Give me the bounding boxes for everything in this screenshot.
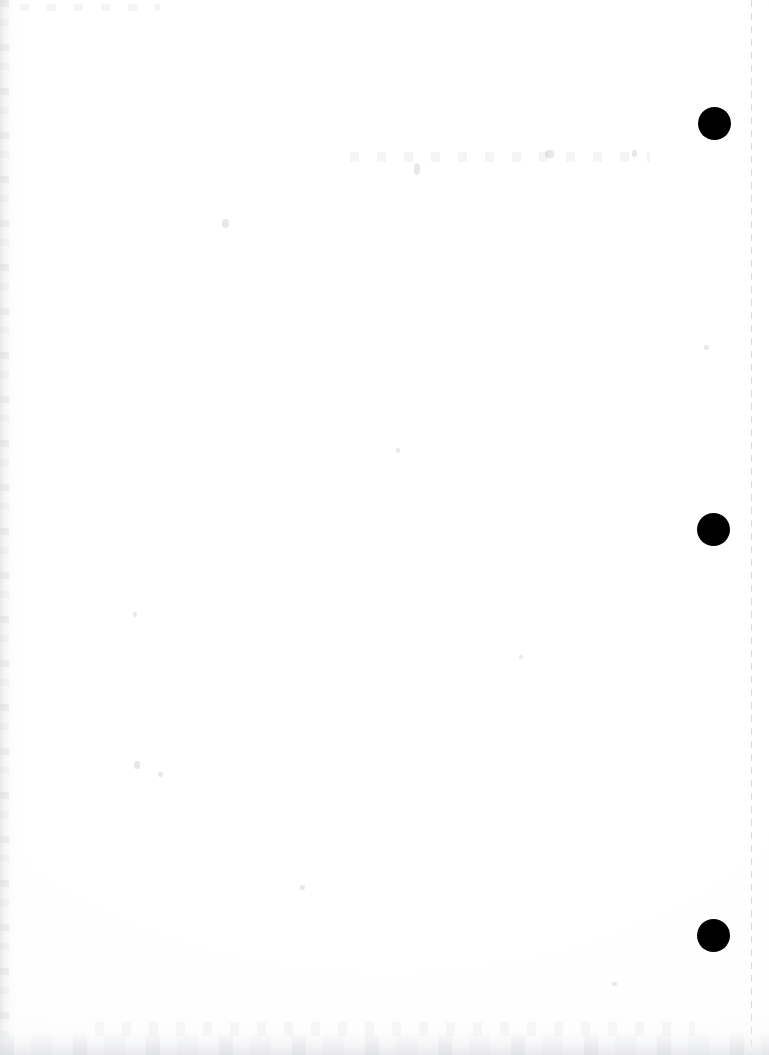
- scan-speck: [133, 612, 137, 617]
- ghost-band: [95, 1022, 695, 1036]
- registration-dot-icon: [698, 107, 731, 140]
- scan-speck: [612, 982, 617, 986]
- scan-speck: [519, 655, 523, 659]
- scan-speck: [704, 345, 709, 350]
- scan-speck: [396, 448, 400, 453]
- left-edge-scan-streak: [0, 0, 26, 1055]
- scan-speck: [222, 219, 229, 228]
- ghost-band: [350, 152, 650, 162]
- scan-speck: [134, 761, 140, 769]
- paper-background: [0, 0, 769, 1055]
- bottom-edge-scan-shadow: [0, 1009, 769, 1055]
- scan-speck: [158, 772, 163, 777]
- registration-dot-icon: [697, 919, 730, 952]
- scan-speck: [414, 163, 420, 175]
- scan-speck: [632, 150, 637, 157]
- scan-speck: [300, 885, 305, 890]
- dashed-margin-rule: [751, 0, 752, 1055]
- ghost-band: [20, 4, 160, 11]
- scanned-page: [0, 0, 769, 1055]
- registration-dot-icon: [697, 513, 730, 546]
- scan-speck: [545, 150, 554, 158]
